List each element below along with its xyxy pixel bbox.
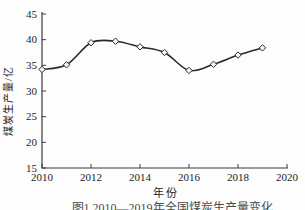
data-point-marker (39, 66, 45, 72)
x-tick-label: 2018 (227, 171, 250, 183)
x-tick-label: 2014 (129, 171, 152, 183)
y-tick-label: 25 (26, 110, 38, 122)
chart-container: 45403530252015201020122014201620182020 煤… (0, 0, 305, 210)
x-tick-label: 2012 (80, 171, 102, 183)
y-tick-label: 30 (26, 85, 38, 97)
line-chart-svg: 45403530252015201020122014201620182020 (0, 0, 305, 210)
y-axis-label: 煤炭生产量/亿 (0, 66, 15, 136)
data-point-marker (112, 38, 118, 44)
x-tick-label: 2016 (178, 171, 201, 183)
y-tick-label: 40 (26, 33, 38, 45)
x-axis-label: 年份 (153, 184, 179, 200)
data-point-marker (235, 52, 241, 58)
y-tick-label: 20 (26, 136, 38, 148)
x-tick-label: 2020 (276, 171, 299, 183)
data-point-marker (186, 67, 192, 73)
data-point-marker (259, 45, 265, 51)
figure-caption: 图1 2010—2019年全国煤炭生产量变化 (72, 201, 273, 210)
data-line (42, 40, 263, 71)
data-point-marker (137, 44, 143, 50)
y-tick-label: 45 (26, 8, 38, 20)
x-tick-label: 2010 (31, 171, 54, 183)
y-tick-label: 35 (26, 59, 38, 71)
axis-lines (42, 12, 288, 168)
data-point-marker (210, 61, 216, 67)
